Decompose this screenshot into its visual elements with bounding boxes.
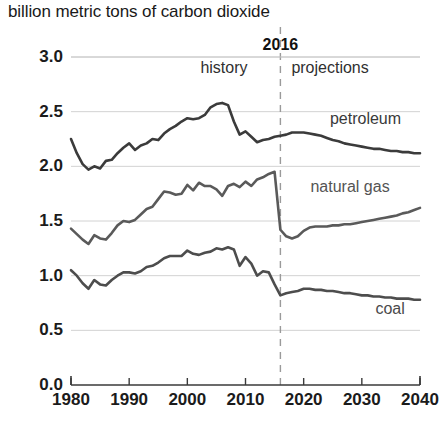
x-tick-2030: 2030 xyxy=(343,390,381,410)
x-tick-2000: 2000 xyxy=(168,390,206,410)
y-tick-2-0: 2.0 xyxy=(17,156,63,176)
x-tick-2040: 2040 xyxy=(401,390,439,410)
y-axis-tick-labels: 0.00.51.01.52.02.53.0 xyxy=(0,57,63,385)
series-label-coal: coal xyxy=(375,300,404,318)
x-tick-2020: 2020 xyxy=(285,390,323,410)
x-tick-1980: 1980 xyxy=(52,390,90,410)
chart-figure: billion metric tons of carbon dioxide 20… xyxy=(0,0,442,429)
y-tick-3-0: 3.0 xyxy=(17,47,63,67)
y-tick-1-5: 1.5 xyxy=(17,211,63,231)
series-label-natural-gas: natural gas xyxy=(310,178,389,196)
plot-area xyxy=(71,57,420,385)
axis-frame xyxy=(71,57,420,385)
x-tick-2010: 2010 xyxy=(227,390,265,410)
chart-title: billion metric tons of carbon dioxide xyxy=(8,2,270,22)
x-tick-1990: 1990 xyxy=(110,390,148,410)
x-axis-tick-labels: 1980199020002010202020302040 xyxy=(71,390,420,416)
y-tick-1-0: 1.0 xyxy=(17,266,63,286)
y-tick-0-5: 0.5 xyxy=(17,320,63,340)
series-label-petroleum: petroleum xyxy=(330,110,401,128)
y-tick-2-5: 2.5 xyxy=(17,102,63,122)
